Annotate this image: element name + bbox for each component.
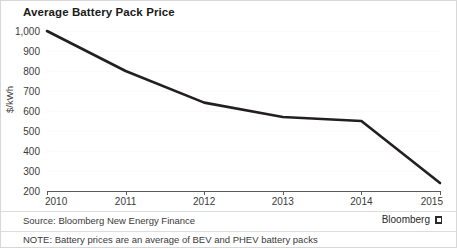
x-tick-mark xyxy=(283,191,284,195)
x-tick-label: 2011 xyxy=(115,196,137,207)
x-tick-label: 2010 xyxy=(45,196,67,207)
x-tick-mark xyxy=(440,191,441,195)
y-tick-label: 800 xyxy=(23,66,40,77)
brand-label: Bloomberg xyxy=(382,214,430,225)
y-tick-label: 700 xyxy=(23,86,40,97)
note-text: NOTE: Battery prices are an average of B… xyxy=(23,234,318,245)
x-axis: 201020112012201320142015 xyxy=(47,191,440,207)
footer-note-divider xyxy=(1,231,456,232)
data-series-line xyxy=(47,31,440,191)
y-tick-label: 400 xyxy=(23,146,40,157)
series-polyline xyxy=(47,31,440,183)
source-text: Source: Bloomberg New Energy Finance xyxy=(23,215,195,226)
brand: Bloomberg xyxy=(382,214,442,225)
chart-figure: Average Battery Pack Price 2003004005006… xyxy=(0,0,457,248)
bloomberg-logo-icon xyxy=(435,216,442,224)
y-tick-label: 900 xyxy=(23,46,40,57)
y-tick-label: 1,000 xyxy=(15,26,40,37)
y-tick-label: 300 xyxy=(23,166,40,177)
x-tick-mark xyxy=(47,191,48,195)
footer-divider xyxy=(1,211,456,212)
x-tick-label: 2012 xyxy=(193,196,215,207)
x-tick-label: 2015 xyxy=(421,196,443,207)
x-tick-label: 2013 xyxy=(272,196,294,207)
x-tick-label: 2014 xyxy=(350,196,372,207)
y-axis-title: $/kWh xyxy=(4,75,15,125)
x-tick-mark xyxy=(361,191,362,195)
page-title: Average Battery Pack Price xyxy=(23,6,175,18)
y-tick-label: 600 xyxy=(23,106,40,117)
y-tick-label: 500 xyxy=(23,126,40,137)
x-tick-mark xyxy=(204,191,205,195)
x-tick-mark xyxy=(126,191,127,195)
y-tick-label: 200 xyxy=(23,186,40,197)
